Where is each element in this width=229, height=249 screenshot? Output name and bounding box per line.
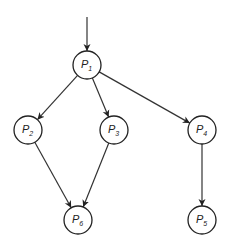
- process-graph: P1P2P3P4P6P5: [0, 0, 229, 249]
- edge-p3-p6: [83, 143, 109, 207]
- node-p1: P1: [73, 51, 101, 79]
- edge-p1-p3: [92, 78, 108, 117]
- edges: [35, 17, 202, 208]
- edge-p1-p2: [37, 75, 77, 119]
- node-p2: P2: [14, 116, 42, 144]
- node-p6: P6: [64, 206, 92, 234]
- node-p3: P3: [100, 116, 128, 144]
- nodes: P1P2P3P4P6P5: [14, 51, 216, 234]
- node-p5: P5: [188, 206, 216, 234]
- node-p4: P4: [188, 116, 216, 144]
- edge-p2-p6: [35, 142, 71, 208]
